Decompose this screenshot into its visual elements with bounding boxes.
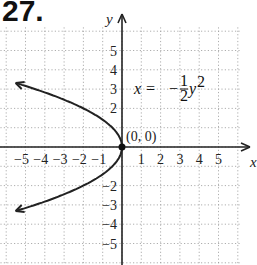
x-tick-label: −1: [91, 152, 106, 167]
x-tick-label: −3: [53, 152, 68, 167]
x-tick-label: 4: [196, 152, 203, 167]
y-tick-label: −5: [102, 237, 117, 252]
equation-var: y: [187, 80, 197, 98]
equation-sign: −: [169, 80, 178, 97]
y-tick-label: 2: [110, 101, 117, 116]
equation-lhs: x =: [133, 80, 156, 97]
y-tick-label: 3: [110, 82, 117, 97]
x-tick-label: 2: [157, 152, 164, 167]
y-tick-label: 4: [110, 63, 117, 78]
x-axis-label: x: [249, 154, 257, 170]
y-tick-label: −2: [102, 179, 117, 194]
vertex-label: (0, 0): [126, 129, 157, 145]
x-tick-label: −5: [14, 152, 29, 167]
x-tick-label: −2: [72, 152, 87, 167]
x-tick-label: 1: [138, 152, 145, 167]
y-axis-label: y: [104, 11, 113, 27]
y-tick-label: −3: [102, 198, 117, 213]
y-tick-label: −4: [102, 217, 117, 232]
y-tick-label: 5: [110, 44, 117, 59]
x-tick-label: 5: [215, 152, 222, 167]
x-tick-label: −4: [33, 152, 48, 167]
equation-exponent: 2: [197, 73, 205, 90]
equation-denominator: 2: [180, 87, 188, 104]
parabola-chart: yx−5−4−3−2−1123455432−2−3−4−5(0, 0)x =−1…: [0, 0, 257, 265]
x-tick-label: 3: [176, 152, 183, 167]
vertex-point: [119, 144, 126, 151]
